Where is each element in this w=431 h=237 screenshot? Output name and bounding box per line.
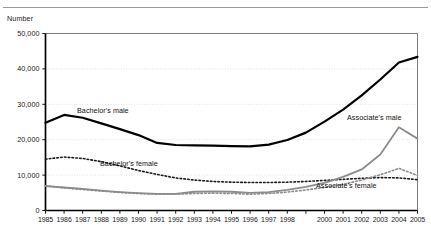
y-axis-tick-label: 20,000 [4,135,40,144]
series-annotation-bachelors-male: Bachelor's male [77,106,129,115]
series-line [46,57,418,147]
chart-plot-area: 010,00020,00030,00040,00050,000198519861… [0,0,431,237]
y-axis-tick-label: 10,000 [4,171,40,180]
series-annotation-associates-female: Associate's female [316,181,377,190]
series-annotation-associates-male: Associate's male [347,113,402,122]
x-axis-tick-label: 2005 [403,216,431,223]
x-axis-tick-label: 1998 [272,216,302,223]
y-axis-tick-label: 40,000 [4,64,40,73]
y-axis-tick-label: 0 [4,206,40,215]
y-axis-tick-label: 50,000 [4,29,40,38]
y-axis-tick-label: 30,000 [4,100,40,109]
series-annotation-bachelors-female: Bachelor's female [100,159,158,168]
